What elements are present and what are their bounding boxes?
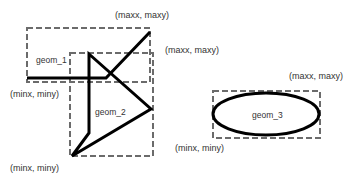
geom-3-label: geom_3 [252,110,283,120]
geom-2-polygon [72,54,151,156]
geom-2-max-label: (maxx, maxy) [165,45,219,55]
geom-1-max-label: (maxx, maxy) [115,10,169,20]
geom-3-max-label: (maxx, maxy) [289,71,343,81]
bounding-box-diagram: geom_1 geom_2 geom_3 (maxx, maxy) (minx,… [0,0,352,185]
geom-1-min-label: (minx, miny) [10,89,59,99]
geom-1-label: geom_1 [36,55,67,65]
geom-3-min-label: (minx, miny) [175,143,224,153]
geom-2-min-label: (minx, miny) [10,163,59,173]
geom-2-label: geom_2 [95,107,126,117]
